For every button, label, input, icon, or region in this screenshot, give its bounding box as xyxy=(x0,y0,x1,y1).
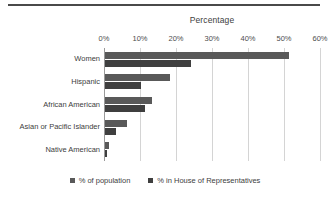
legend-label: % in House of Representatives xyxy=(157,176,260,185)
bar-hispanic-series-1 xyxy=(105,82,141,89)
bar-hispanic-series-0 xyxy=(105,74,170,81)
chart-container: Percentage 0%10%20%30%40%50%60% WomenHis… xyxy=(0,0,330,198)
x-axis-tick-40: 40% xyxy=(240,34,255,43)
chart-title: Percentage xyxy=(104,15,320,25)
bar-native-american-series-1 xyxy=(105,150,107,157)
y-axis-label-hispanic: Hispanic xyxy=(0,77,100,86)
bar-women-series-1 xyxy=(105,60,191,67)
bar-asian-or-pacific-islander-series-1 xyxy=(105,128,116,135)
chart-legend: % of population% in House of Representat… xyxy=(0,176,330,185)
x-axis-tick-0: 0% xyxy=(99,34,110,43)
bar-african-american-series-0 xyxy=(105,97,152,104)
x-axis-tick-60: 60% xyxy=(312,34,327,43)
x-axis-tick-labels: 0%10%20%30%40%50%60% xyxy=(0,34,330,46)
bar-women-series-0 xyxy=(105,52,289,59)
x-axis-tick-10: 10% xyxy=(132,34,147,43)
gridline xyxy=(284,48,285,161)
x-axis-tick-30: 30% xyxy=(204,34,219,43)
plot-area xyxy=(104,48,320,161)
y-axis-label-asian-or-pacific-islander: Asian or Pacific Islander xyxy=(0,122,100,131)
gridline xyxy=(320,48,321,161)
gridline xyxy=(212,48,213,161)
gridline xyxy=(248,48,249,161)
bar-asian-or-pacific-islander-series-0 xyxy=(105,120,127,127)
header-divider xyxy=(8,4,320,6)
legend-item-1[interactable]: % in House of Representatives xyxy=(148,176,260,185)
bar-native-american-series-0 xyxy=(105,142,109,149)
legend-label: % of population xyxy=(79,176,131,185)
x-axis-tick-50: 50% xyxy=(276,34,291,43)
y-axis-category-labels: WomenHispanicAfrican AmericanAsian or Pa… xyxy=(0,48,100,161)
legend-swatch-icon xyxy=(148,178,153,183)
legend-swatch-icon xyxy=(70,178,75,183)
x-axis-tick-20: 20% xyxy=(168,34,183,43)
y-axis-label-native-american: Native American xyxy=(0,145,100,154)
y-axis-label-african-american: African American xyxy=(0,100,100,109)
legend-item-0[interactable]: % of population xyxy=(70,176,131,185)
bar-african-american-series-1 xyxy=(105,105,145,112)
y-axis-label-women: Women xyxy=(0,54,100,63)
